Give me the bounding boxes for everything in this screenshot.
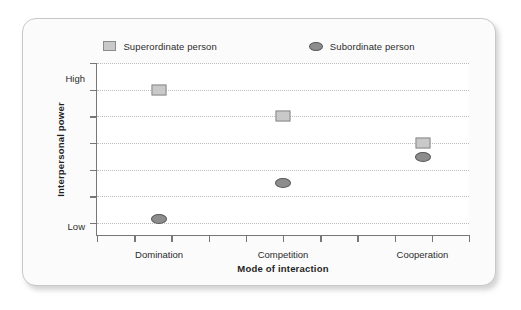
y-axis-line <box>96 63 97 235</box>
data-point-subordinate-cooperation <box>415 152 431 162</box>
data-point-subordinate-competition <box>275 178 291 188</box>
legend-item-subordinate: Subordinate person <box>309 41 415 52</box>
x-tick-1 <box>134 235 135 242</box>
plot-area: HighLow DominationCompetitionCooperation <box>97 63 469 235</box>
x-tick-5 <box>283 235 284 242</box>
x-tick-label-domination: Domination <box>135 249 183 260</box>
figure-card: Superordinate person Subordinate person … <box>22 18 496 286</box>
x-tick-6 <box>320 235 321 242</box>
x-tick-2 <box>171 235 172 242</box>
gridline-4 <box>97 170 469 171</box>
data-point-superordinate-domination <box>152 84 167 95</box>
gridline-0 <box>97 63 469 64</box>
gridline-5 <box>97 196 469 197</box>
x-tick-8 <box>395 235 396 242</box>
x-tick-4 <box>246 235 247 242</box>
x-tick-7 <box>357 235 358 242</box>
gridline-6 <box>97 223 469 224</box>
legend-item-superordinate: Superordinate person <box>103 41 216 52</box>
legend-ellipse-icon <box>309 42 323 51</box>
x-tick-3 <box>209 235 210 242</box>
data-point-superordinate-cooperation <box>415 137 430 148</box>
x-tick-label-competition: Competition <box>258 249 309 260</box>
y-axis-title-text: Interpersonal power <box>55 102 66 197</box>
legend-square-icon <box>103 41 116 51</box>
x-tick-0 <box>97 235 98 242</box>
x-axis-title: Mode of interaction <box>97 263 469 274</box>
legend-label-superordinate: Superordinate person <box>123 41 216 52</box>
legend-label-subordinate: Subordinate person <box>330 41 415 52</box>
gridline-3 <box>97 143 469 144</box>
y-axis-title: Interpersonal power <box>53 63 67 235</box>
y-tick-label-high: High <box>65 72 85 83</box>
x-axis-line <box>96 235 469 236</box>
x-tick-label-cooperation: Cooperation <box>397 249 449 260</box>
data-point-subordinate-domination <box>151 214 167 224</box>
chart-legend: Superordinate person Subordinate person <box>23 37 495 55</box>
x-tick-10 <box>469 235 470 242</box>
y-tick-label-low: Low <box>68 220 85 231</box>
data-point-superordinate-competition <box>276 111 291 122</box>
x-tick-9 <box>432 235 433 242</box>
